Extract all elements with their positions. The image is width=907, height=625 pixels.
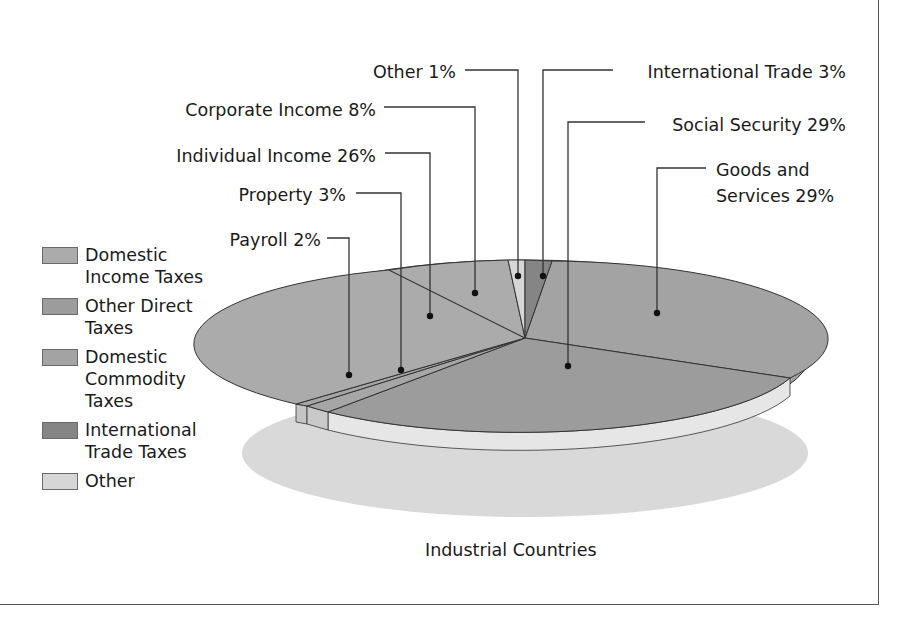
legend-item-domestic-commodity: Domestic Commodity Taxes	[42, 346, 242, 412]
legend-swatch	[42, 422, 78, 439]
label-international-trade: International Trade 3%	[648, 62, 847, 82]
legend-swatch	[42, 473, 78, 490]
legend-item-other: Other	[42, 470, 242, 492]
legend-item-international-trade: International Trade Taxes	[42, 419, 242, 463]
legend-label: Domestic Commodity Taxes	[85, 346, 186, 412]
legend-item-domestic-income: Domestic Income Taxes	[42, 244, 242, 288]
legend: Domestic Income Taxes Other Direct Taxes…	[42, 244, 242, 499]
legend-swatch	[42, 349, 78, 366]
legend-swatch	[42, 247, 78, 264]
label-individual-income: Individual Income 26%	[176, 146, 376, 166]
legend-label: Other Direct Taxes	[85, 295, 193, 339]
legend-swatch	[42, 298, 78, 315]
label-social-security: Social Security 29%	[672, 115, 846, 135]
label-goods-services-1: Goods and	[716, 160, 810, 180]
label-other: Other 1%	[373, 62, 456, 82]
pie-side-payroll	[296, 404, 307, 424]
legend-label: International Trade Taxes	[85, 419, 197, 463]
label-goods-services-2: Services 29%	[716, 186, 834, 206]
legend-label: Other	[85, 470, 135, 492]
label-property: Property 3%	[239, 185, 346, 205]
legend-label: Domestic Income Taxes	[85, 244, 203, 288]
label-payroll: Payroll 2%	[230, 230, 321, 250]
label-corporate-income: Corporate Income 8%	[185, 100, 376, 120]
chart-caption: Industrial Countries	[425, 540, 597, 560]
legend-item-other-direct: Other Direct Taxes	[42, 295, 242, 339]
